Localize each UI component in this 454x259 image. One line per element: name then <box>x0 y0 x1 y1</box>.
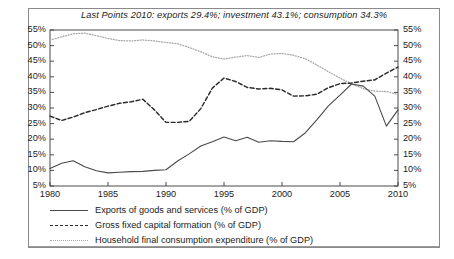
x-tick-1980: 1980 <box>30 189 70 199</box>
x-tick-1990: 1990 <box>146 189 186 199</box>
legend-item-exports: Exports of goods and services (% of GDP) <box>50 202 420 217</box>
y-tick-right-15: 15% <box>403 149 433 159</box>
y-tick-left-25: 25% <box>18 118 46 128</box>
x-tick-2010: 2010 <box>378 189 418 199</box>
legend-item-consumption: Household final consumption expenditure … <box>50 232 420 247</box>
x-tick-2000: 2000 <box>262 189 302 199</box>
y-tick-left-50: 50% <box>18 40 46 50</box>
y-tick-right-30: 30% <box>403 102 433 112</box>
legend-item-investment: Gross fixed capital formation (% of GDP) <box>50 217 420 232</box>
y-tick-left-30: 30% <box>18 102 46 112</box>
y-tick-left-40: 40% <box>18 71 46 81</box>
legend-line-dashed-icon <box>50 220 88 230</box>
chart-figure: Last Points 2010: exports 29.4%; investm… <box>0 0 454 259</box>
x-tick-1995: 1995 <box>204 189 244 199</box>
legend-line-dotted-icon <box>50 235 88 245</box>
y-tick-right-45: 45% <box>403 55 433 65</box>
legend-label-investment: Gross fixed capital formation (% of GDP) <box>95 220 261 230</box>
y-tick-right-50: 50% <box>403 40 433 50</box>
legend-label-exports: Exports of goods and services (% of GDP) <box>95 205 268 215</box>
x-tick-1985: 1985 <box>88 189 128 199</box>
y-tick-right-40: 40% <box>403 71 433 81</box>
y-tick-right-55: 55% <box>403 24 433 34</box>
y-tick-left-15: 15% <box>18 149 46 159</box>
y-tick-left-55: 55% <box>18 24 46 34</box>
y-tick-right-25: 25% <box>403 118 433 128</box>
legend-line-solid-icon <box>50 205 88 215</box>
x-tick-2005: 2005 <box>320 189 360 199</box>
y-tick-right-35: 35% <box>403 86 433 96</box>
chart-legend: Exports of goods and services (% of GDP)… <box>50 202 420 247</box>
y-tick-left-35: 35% <box>18 86 46 96</box>
legend-label-consumption: Household final consumption expenditure … <box>95 235 313 245</box>
y-tick-left-45: 45% <box>18 55 46 65</box>
y-tick-left-20: 20% <box>18 133 46 143</box>
legend-divider <box>29 246 439 247</box>
y-tick-right-10: 10% <box>403 164 433 174</box>
y-tick-left-10: 10% <box>18 164 46 174</box>
y-tick-right-20: 20% <box>403 133 433 143</box>
